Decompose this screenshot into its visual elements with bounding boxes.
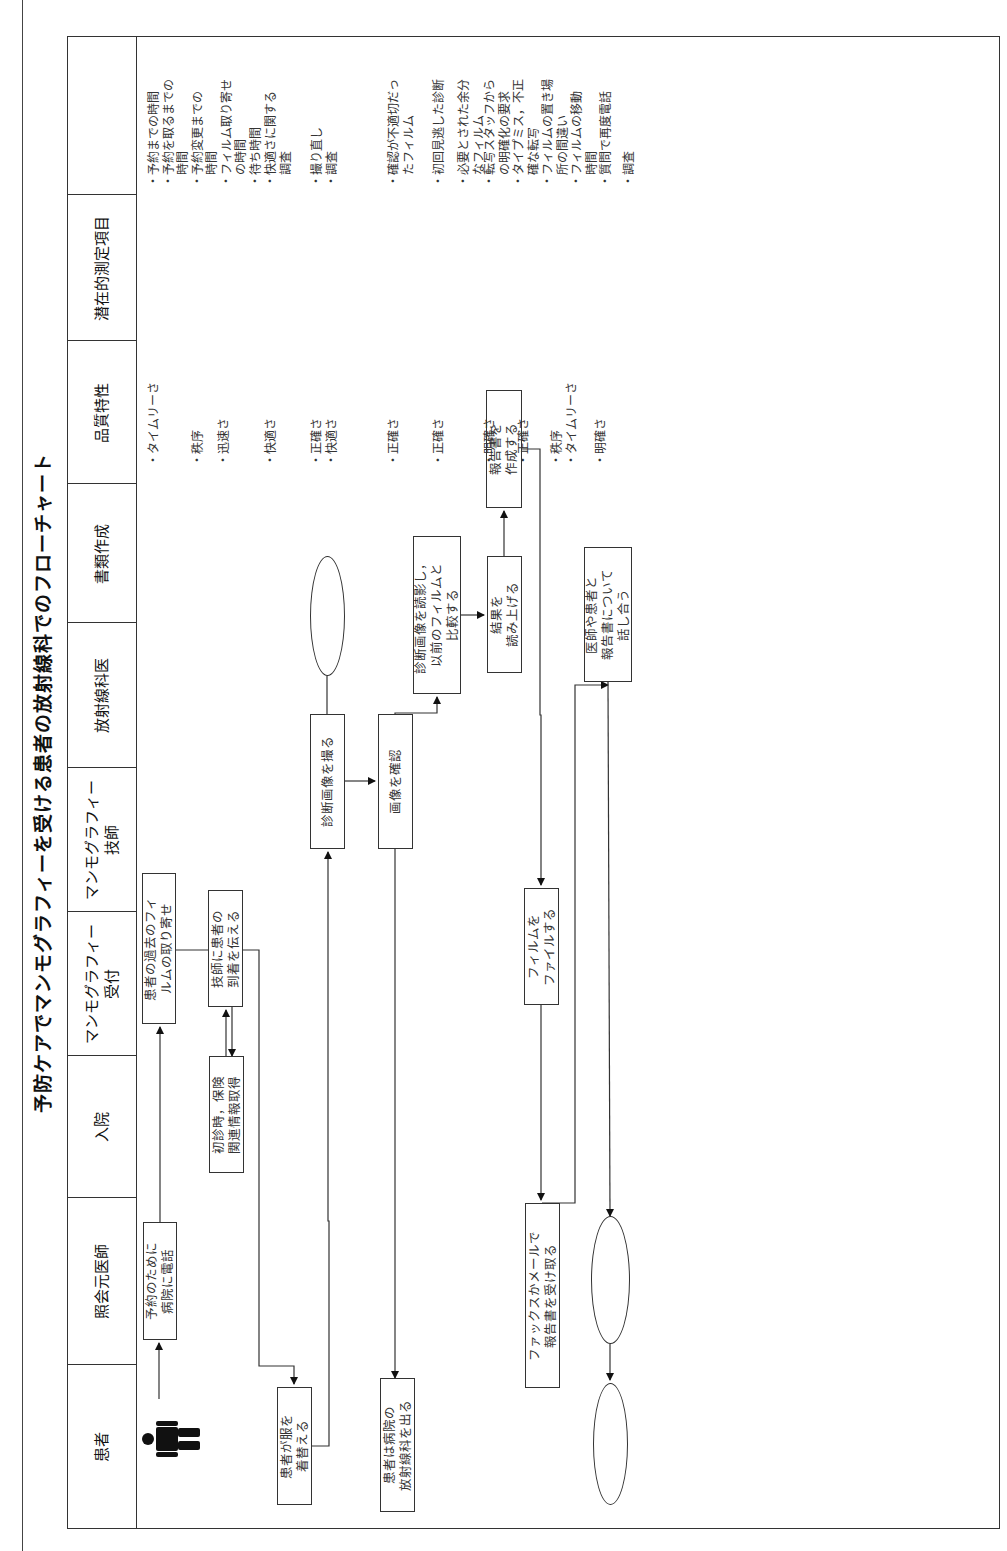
- flowchart-page: 予防ケアでマンモグラフィーを受ける患者の放射線科でのフローチャート 患者 照会元…: [0, 0, 1007, 1551]
- measure-item: ・必要とされた余分 なフィルム: [457, 79, 486, 187]
- step-intake-insurance: 初診時，保険 関連情報取得: [209, 1056, 244, 1173]
- step-read-compare: 診断画像を読影し， 以前のフィルムと 比較する: [413, 536, 461, 694]
- quality-item: ・秩序 ・タイムリーさ: [550, 382, 579, 466]
- referring-oval: [591, 1216, 630, 1344]
- person-icon: [142, 1421, 200, 1457]
- quality-item: ・正確さ: [387, 418, 402, 466]
- quality-item: ・明確さ: [594, 418, 609, 466]
- step-patient-changes: 患者が服を 着替える: [277, 1387, 312, 1505]
- step-dictate-results: 結果を 読み上げる: [487, 556, 522, 673]
- measure-item: ・初回見逃した診断: [432, 79, 447, 187]
- step-notify-technologist: 技師に患者の 到着を伝える: [208, 890, 243, 1007]
- step-call-hospital: 予約のために 病院に電話: [143, 1222, 177, 1340]
- step-discuss-report: 医師や患者と 報告書について 話し合う: [584, 547, 632, 682]
- quality-item: ・正確さ: [432, 418, 447, 466]
- step-retrieve-films: 患者の過去のフィ ルムの取り寄せ: [142, 873, 176, 1024]
- quality-item: ・秩序: [191, 430, 206, 466]
- step-file-films: フィルムを ファイルする: [524, 888, 559, 1005]
- step-receive-report: ファックスかメールで 報告書を受け取る: [525, 1203, 560, 1388]
- measure-item: ・調査: [622, 151, 637, 187]
- step-take-images: 診断画像を撮る: [310, 714, 345, 849]
- radiologist-oval: [310, 556, 345, 676]
- quality-item: ・タイムリーさ: [147, 382, 162, 466]
- quality-item: ・明確さ: [483, 418, 498, 466]
- quality-item: ・正確さ ・快適さ: [310, 418, 339, 466]
- step-check-images: 画像を確認: [378, 714, 413, 849]
- quality-item: ・快適さ: [264, 418, 279, 466]
- quality-item: ・正確さ: [517, 418, 532, 466]
- quality-item: ・迅速さ: [217, 418, 232, 466]
- patient-end-oval: [593, 1383, 628, 1505]
- step-patient-leaves: 患者は病院の 放射線科を出る: [380, 1378, 415, 1512]
- measure-item: ・転写スタッフから の明確化の要求 ・タイプミス，不正 確な転写 ・フィルムの置…: [483, 79, 614, 187]
- measure-item: ・確認が不適切だっ たフィルム: [387, 79, 416, 187]
- measure-item: ・撮り直し ・調査: [310, 127, 339, 187]
- measure-item: ・快適さに関する 調査: [264, 91, 293, 187]
- measure-item: ・予約までの時間 ・予約を取るまでの 時間 ・予約変更までの 時間 ・フィルム取…: [147, 79, 263, 187]
